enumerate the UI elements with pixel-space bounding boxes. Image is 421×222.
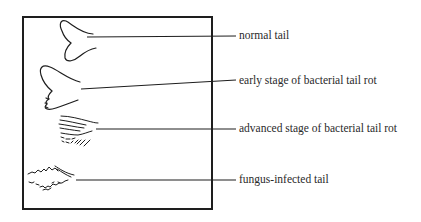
diagram-drawing bbox=[0, 0, 421, 222]
normal-tail-illustration bbox=[60, 21, 96, 61]
label-fungus-infected-tail: fungus-infected tail bbox=[239, 174, 329, 186]
normal-tail-leader bbox=[87, 36, 236, 37]
label-advanced-tail-rot: advanced stage of bacterial tail rot bbox=[239, 123, 397, 135]
label-normal-tail: normal tail bbox=[239, 30, 289, 42]
early-rot-illustration bbox=[40, 66, 80, 109]
tail-rot-diagram: normal tail early stage of bacterial tai… bbox=[0, 0, 421, 222]
advanced-rot-illustration bbox=[59, 116, 98, 146]
label-early-tail-rot: early stage of bacterial tail rot bbox=[239, 75, 377, 87]
fungus-tail-illustration bbox=[28, 166, 74, 190]
